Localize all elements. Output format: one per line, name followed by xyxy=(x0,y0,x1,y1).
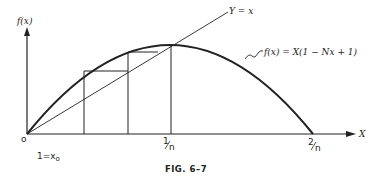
x-axis-arrow-icon xyxy=(346,131,356,137)
tick-label-1-over-n: 1 n xyxy=(163,136,175,152)
x-axis-label: X xyxy=(358,129,366,139)
svg-text:n: n xyxy=(315,143,321,153)
parabola-curve xyxy=(27,45,313,134)
y-axis-arrow-icon xyxy=(24,27,30,36)
x-axis xyxy=(27,131,356,137)
x0-subscript: o xyxy=(56,155,60,163)
y-axis-label: f(x) xyxy=(16,16,33,26)
tick-label-2-over-n: 2 n xyxy=(308,137,321,153)
svg-text:2: 2 xyxy=(308,137,314,147)
figure-caption: FIG. 6–7 xyxy=(165,164,207,174)
y-axis xyxy=(24,27,30,134)
cobweb-iteration xyxy=(84,46,171,134)
identity-line-label: Y = x xyxy=(229,6,253,16)
squiggle-leader-icon xyxy=(245,51,263,59)
iteration-diagram: f(x) X o Y = x f(x) = X(1 − Nx + 1) 1=xo… xyxy=(0,0,372,179)
origin-label: o xyxy=(21,134,27,144)
svg-text:n: n xyxy=(169,142,175,152)
x0-label: 1=xo xyxy=(37,151,60,163)
parabola-label: f(x) = X(1 − Nx + 1) xyxy=(263,47,358,57)
